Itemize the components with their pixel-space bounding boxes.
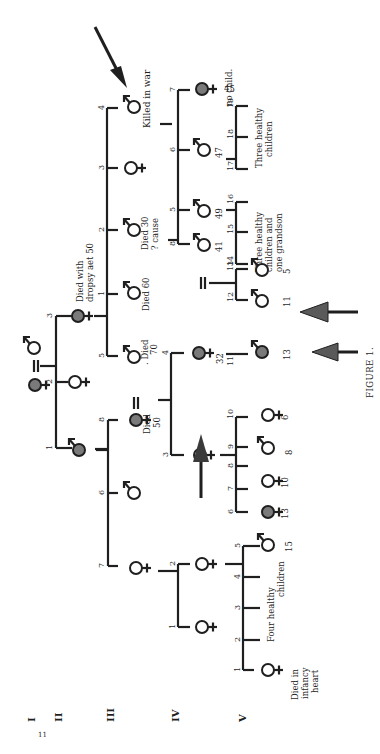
svg-text:2: 2 [168, 561, 177, 566]
svg-text:11: 11 [38, 731, 47, 739]
V-9-male [258, 437, 274, 454]
male-symbol [24, 337, 40, 354]
svg-text:8: 8 [284, 450, 294, 455]
svg-text:Four healthy: Four healthy [266, 587, 276, 642]
III-5-male [124, 346, 140, 363]
svg-text:children: children [276, 561, 286, 597]
svg-text:13: 13 [226, 261, 235, 271]
svg-text:9: 9 [226, 444, 235, 449]
svg-text:11: 11 [226, 356, 235, 366]
svg-text:Killed in war: Killed in war [142, 69, 152, 128]
svg-text:6: 6 [97, 490, 106, 495]
svg-text:4: 4 [233, 574, 242, 579]
svg-text:3: 3 [45, 313, 54, 318]
V-12-male [252, 290, 268, 307]
svg-text:one grandson: one grandson [274, 213, 284, 272]
generation-III-left: 8 6 7 Died 50 [96, 413, 162, 574]
svg-text:1: 1 [45, 445, 54, 450]
II-2-female [69, 376, 90, 388]
svg-text:dropsy aet 50: dropsy aet 50 [85, 243, 95, 302]
iv3-arrow [193, 434, 209, 498]
IV-6-male [194, 139, 210, 156]
generation-V-1-5: 5 4 3 2 1 Four healthy children Died in … [225, 543, 320, 700]
svg-text:8: 8 [97, 417, 106, 422]
svg-text:32: 32 [215, 353, 225, 364]
generation-labels: I II III IV V 11 [26, 708, 248, 739]
III-7-female [130, 562, 151, 574]
svg-text:18: 18 [226, 129, 235, 139]
IV-5-male [194, 200, 210, 217]
generation-V-6-10: 10 9 8 7 6 6 8 10 13 15 [220, 409, 294, 552]
svg-text:5: 5 [282, 269, 292, 274]
svg-text:4: 4 [97, 105, 106, 110]
svg-text:Three healthy: Three healthy [254, 108, 264, 168]
svg-text:V: V [237, 714, 248, 723]
svg-text:3: 3 [233, 605, 242, 610]
III-4-male-proband [124, 96, 140, 113]
svg-text:10: 10 [226, 409, 235, 419]
svg-text:heart: heart [310, 669, 320, 693]
svg-text:1: 1 [97, 291, 106, 296]
IV-2-female [196, 558, 217, 570]
svg-text:50: 50 [152, 417, 162, 428]
svg-text:Died with: Died with [75, 260, 85, 302]
svg-text:children and: children and [264, 217, 274, 272]
svg-text:4: 4 [161, 350, 170, 355]
svg-text:3: 3 [161, 452, 170, 457]
generation-IV-middle: 4 3 32 [158, 347, 225, 461]
svg-text:Died in: Died in [290, 669, 300, 700]
svg-text:15: 15 [284, 541, 294, 552]
svg-text:6: 6 [168, 147, 177, 152]
generation-IV-right: 7 6 5 8 45 no child. 47 49 41 [160, 69, 235, 252]
svg-text:15: 15 [226, 224, 235, 234]
generation-III-right: 4 3 2 1 5 Killed in war Died 30 ? cause … [97, 69, 160, 365]
proband-arrow [95, 27, 127, 88]
III-1-male [124, 282, 140, 299]
generation-V-11: 11 13 [226, 341, 292, 366]
svg-text:10: 10 [280, 477, 290, 488]
svg-text:70: 70 [149, 344, 159, 355]
svg-text:? cause: ? cause [150, 218, 160, 250]
svg-text:47: 47 [214, 147, 224, 158]
svg-text:III: III [105, 708, 116, 722]
svg-text:7: 7 [168, 87, 177, 92]
svg-text:2: 2 [45, 379, 54, 384]
svg-text:2: 2 [233, 637, 242, 642]
IV-8-male [194, 234, 210, 251]
svg-text:49: 49 [214, 208, 224, 219]
svg-text:11: 11 [282, 296, 292, 307]
figure-caption: FIGURE 1. [365, 347, 375, 398]
svg-text:children: children [264, 121, 274, 157]
IV-1-female [196, 621, 217, 633]
svg-text:41: 41 [214, 241, 224, 252]
svg-text:6: 6 [226, 509, 235, 514]
generation-V-right-groups: 19 18 17 Three healthy children 16 15 14… [226, 98, 284, 272]
svg-text:Died 30: Died 30 [140, 216, 150, 250]
svg-text:13: 13 [280, 508, 290, 519]
svg-text:5: 5 [168, 207, 177, 212]
svg-text:7: 7 [97, 563, 106, 568]
II-3-female-affected [72, 310, 93, 322]
svg-text:13: 13 [282, 349, 292, 360]
IV-7-female-affected [196, 83, 217, 95]
svg-text:Died 60: Died 60 [141, 277, 151, 311]
svg-text:Died: Died [142, 413, 152, 434]
V-11-male-affected [252, 341, 268, 358]
svg-text:8: 8 [226, 463, 235, 468]
svg-text:2: 2 [97, 227, 106, 232]
svg-text:6: 6 [280, 415, 290, 420]
v11-v12-arrows [300, 302, 358, 361]
svg-text:5: 5 [97, 353, 106, 358]
III-3-female [125, 162, 146, 174]
V-1-female [262, 664, 283, 676]
svg-text:3: 3 [97, 165, 106, 170]
generation-II: 3 2 1 Died with dropsy aet 50 [45, 243, 95, 456]
svg-text:16: 16 [226, 194, 235, 204]
III-2-male [124, 219, 140, 236]
svg-text:12: 12 [226, 292, 235, 302]
svg-text:8: 8 [168, 241, 177, 246]
V-6-male [258, 534, 274, 551]
svg-text:1: 1 [233, 667, 242, 672]
svg-text:infancy: infancy [300, 667, 310, 699]
svg-text:I: I [26, 717, 37, 722]
